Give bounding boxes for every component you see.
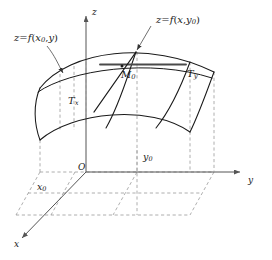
eq2-paren-close: ) bbox=[196, 14, 200, 25]
label-tangent-Ty: Ty bbox=[187, 69, 198, 80]
eq1-op: = bbox=[19, 32, 27, 43]
eq2-op: = bbox=[161, 14, 169, 25]
eq1-paren-close: ) bbox=[54, 32, 58, 43]
y0-sub: 0 bbox=[148, 155, 152, 163]
label-axis-z: z bbox=[92, 8, 97, 17]
Tx-sub: x bbox=[75, 99, 79, 107]
surface-right-edge bbox=[190, 72, 214, 132]
Ty-sub: y bbox=[194, 72, 198, 80]
label-curve-z-equals-f-x-y0: z=f(x,y0) bbox=[156, 15, 200, 26]
coordinate-axes bbox=[22, 16, 240, 238]
label-origin-O: O bbox=[78, 163, 85, 172]
label-leader-arrows bbox=[47, 26, 151, 73]
leader-arrow-curve-y0 bbox=[137, 26, 151, 50]
box-left-edge bbox=[16, 172, 40, 215]
x0-sub: 0 bbox=[42, 185, 46, 193]
surface-left-edge bbox=[35, 88, 40, 140]
Tx-base: T bbox=[68, 95, 75, 106]
x-axis bbox=[22, 172, 86, 238]
tangent-line-Tx bbox=[94, 52, 136, 112]
Ty-base: T bbox=[187, 68, 194, 79]
leader-arrow-curve-x0 bbox=[47, 46, 63, 73]
box-right-edge bbox=[190, 172, 214, 215]
M0-base: M bbox=[121, 69, 131, 80]
surface-grid-x-right bbox=[156, 62, 190, 128]
label-point-M0: M0 bbox=[121, 70, 136, 81]
box-grid-x-at-y0 bbox=[113, 172, 137, 215]
label-tangent-Tx: Tx bbox=[68, 96, 79, 107]
M0-sub: 0 bbox=[131, 73, 135, 81]
point-M0-marker bbox=[121, 65, 124, 68]
label-axis-y: y bbox=[248, 176, 253, 185]
label-axis-x: x bbox=[14, 240, 19, 249]
label-coord-y0: y0 bbox=[143, 152, 152, 163]
figure-canvas: z=f(x0,y) z=f(x,y0) M0 Tx Ty O y z x x0 … bbox=[0, 0, 272, 260]
surface-front-edge bbox=[40, 115, 190, 140]
label-coord-x0: x0 bbox=[37, 182, 46, 193]
box-grid-x-mid bbox=[51, 172, 75, 215]
curve-z-f-x-y0 bbox=[106, 52, 136, 128]
label-curve-z-equals-f-x0-y: z=f(x0,y) bbox=[14, 33, 58, 44]
